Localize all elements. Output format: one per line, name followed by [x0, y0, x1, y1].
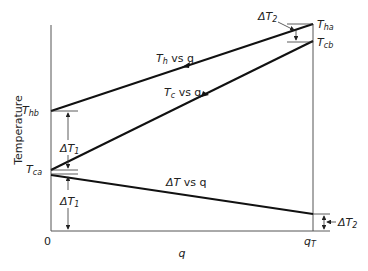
T-hb-label: Thb [22, 104, 39, 118]
origin-label: 0 [44, 235, 51, 248]
dT1-upper-label: ΔT1 [59, 142, 79, 156]
dT2-right-label: ΔT2 [337, 216, 357, 230]
x-axis-label: q [179, 247, 186, 260]
dT2-top-leader [278, 22, 294, 30]
dT1-lower-label: ΔT1 [59, 195, 79, 209]
dT2-top-label: ΔT2 [257, 10, 277, 24]
cold-curve-label: Tc vs q [164, 86, 201, 100]
T-cb-label: Tcb [317, 36, 333, 50]
delta-curve-label: ΔT vs q [165, 176, 206, 189]
heat-exchanger-temperature-diagram: Temperature q 0 qT Thb Tca Tha Tcb Th vs… [0, 0, 368, 271]
hot-curve-label: Th vs q [156, 52, 194, 66]
T-ca-label: Tca [26, 163, 42, 177]
q-total-label: qT [304, 235, 317, 249]
T-ha-label: Tha [317, 18, 334, 32]
